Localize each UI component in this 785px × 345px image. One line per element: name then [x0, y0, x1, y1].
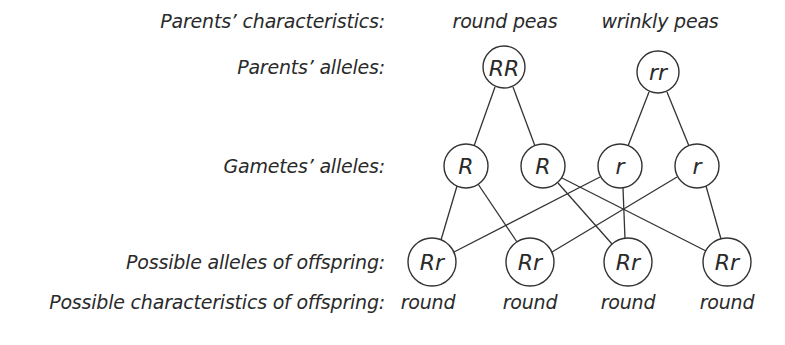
edge-g1-o2	[478, 184, 517, 242]
edge-g4-o2	[552, 177, 677, 252]
offspring-2-characteristic: round	[503, 293, 558, 312]
gamete-node-2: R	[521, 144, 565, 188]
edge-RR-g2	[513, 87, 535, 146]
edge-RR-g1	[474, 87, 495, 146]
gamete-node-1: R	[444, 144, 488, 188]
edge-g3-o3	[623, 188, 625, 239]
punnett-diagram: RR rr R R r r Rr Rr Rr Rr	[0, 0, 785, 345]
offspring-node-4: Rr	[703, 238, 751, 286]
edge-g2-o3	[558, 183, 612, 244]
gamete-node-4: r	[675, 144, 719, 188]
offspring-1-characteristic: round	[401, 293, 456, 312]
edge-g1-o1	[441, 186, 457, 240]
parent-node-rr: rr	[637, 51, 679, 93]
parent-node-RR: RR	[483, 46, 525, 88]
edge-rr-g4	[667, 92, 689, 146]
svg-text:rr: rr	[649, 60, 669, 85]
offspring-node-1: Rr	[408, 238, 456, 286]
offspring-4-characteristic: round	[700, 293, 755, 312]
edge-rr-g3	[628, 92, 649, 146]
svg-text:R: R	[458, 154, 473, 179]
svg-text:Rr: Rr	[420, 250, 446, 275]
offspring-node-2: Rr	[506, 238, 554, 286]
svg-text:Rr: Rr	[715, 250, 741, 275]
gamete-node-3: r	[598, 144, 642, 188]
offspring-3-characteristic: round	[601, 293, 656, 312]
svg-text:RR: RR	[489, 56, 520, 81]
offspring-node-3: Rr	[604, 238, 652, 286]
svg-text:Rr: Rr	[518, 250, 544, 275]
svg-text:R: R	[535, 154, 550, 179]
edge-g4-o4	[706, 186, 721, 239]
svg-text:Rr: Rr	[616, 250, 642, 275]
